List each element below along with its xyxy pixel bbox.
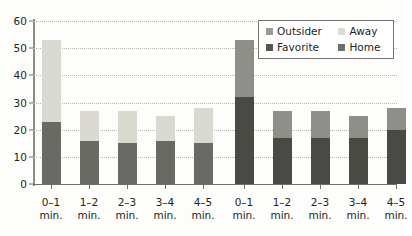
legend-item: Home [338, 41, 387, 54]
y-tick-label-0: 0 [20, 178, 27, 190]
bar-segment [235, 97, 254, 184]
bar-segment [42, 40, 61, 122]
legend-item: Outsider [266, 25, 328, 38]
bar [235, 40, 254, 184]
bar [118, 111, 137, 184]
bar [387, 108, 406, 184]
y-tick-label-30: 30 [13, 97, 27, 109]
x-tick-mark [282, 184, 283, 189]
bar [42, 40, 61, 184]
legend-label: Home [349, 41, 380, 54]
legend-swatch-icon [338, 44, 345, 51]
legend-label: Outsider [277, 25, 322, 38]
x-tick-mark [203, 184, 204, 189]
y-tick-mark-30 [29, 102, 33, 103]
bar [156, 116, 175, 184]
gridline-30 [33, 103, 397, 104]
bar [194, 108, 213, 184]
y-tick-label-50: 50 [13, 42, 27, 54]
x-tick-label-unit: min. [181, 209, 225, 222]
bar-segment [42, 122, 61, 184]
bar-segment [311, 111, 330, 138]
chart-legend: OutsiderAwayFavoriteHome [258, 20, 394, 59]
x-tick-mark [127, 184, 128, 189]
bar-segment [80, 141, 99, 184]
bar-segment [194, 143, 213, 184]
x-tick-label-range: 4–5 [181, 196, 225, 209]
x-tick-mark [244, 184, 245, 189]
bar-segment [349, 138, 368, 184]
bar-segment [235, 40, 254, 97]
bar-segment [118, 143, 137, 184]
bar-segment [156, 116, 175, 140]
legend-label: Away [349, 25, 377, 38]
y-tick-label-20: 20 [13, 124, 27, 136]
bar-segment [273, 138, 292, 184]
y-tick-label-60: 60 [13, 15, 27, 27]
y-tick-mark-20 [29, 129, 33, 130]
y-tick-label-40: 40 [13, 69, 27, 81]
x-tick-label-unit: min. [374, 209, 412, 222]
x-tick-mark [51, 184, 52, 189]
legend-item: Favorite [266, 41, 328, 54]
x-tick-mark [89, 184, 90, 189]
gridline-40 [33, 75, 397, 76]
bar [80, 111, 99, 184]
x-tick-mark [320, 184, 321, 189]
x-tick-mark [165, 184, 166, 189]
x-tick-mark [358, 184, 359, 189]
bar-segment [387, 108, 406, 130]
bar-segment [349, 116, 368, 138]
bar-segment [118, 111, 137, 144]
x-tick-mark [396, 184, 397, 189]
legend-item: Away [338, 25, 387, 38]
bar-segment [273, 111, 292, 138]
bar [311, 111, 330, 184]
x-axis-line [33, 184, 397, 185]
x-tick-label: 4–5min. [374, 196, 412, 221]
bar-segment [80, 111, 99, 141]
bar [349, 116, 368, 184]
x-tick-label-range: 4–5 [374, 196, 412, 209]
y-tick-mark-40 [29, 75, 33, 76]
legend-swatch-icon [266, 28, 273, 35]
y-tick-mark-50 [29, 48, 33, 49]
bar-segment [194, 108, 213, 143]
bar [273, 111, 292, 184]
legend-swatch-icon [338, 28, 345, 35]
bar-segment [311, 138, 330, 184]
y-tick-mark-60 [29, 21, 33, 22]
y-tick-mark-0 [29, 184, 33, 185]
y-tick-label-10: 10 [13, 151, 27, 163]
bar-segment [387, 130, 406, 184]
bar-segment [156, 141, 175, 184]
legend-label: Favorite [277, 41, 319, 54]
y-tick-mark-10 [29, 156, 33, 157]
legend-swatch-icon [266, 44, 273, 51]
x-tick-label: 4–5min. [181, 196, 225, 221]
